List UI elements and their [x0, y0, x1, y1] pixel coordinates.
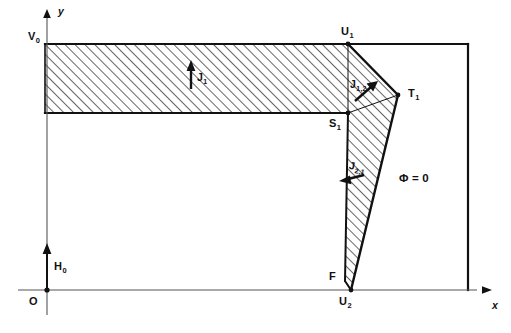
j21-arrow-head: [339, 176, 351, 185]
diagram-svg: [0, 0, 511, 333]
point-label-s1: S1: [329, 118, 341, 129]
origin-label: O: [29, 296, 38, 307]
point-label-v0: V0: [28, 31, 40, 42]
point-label-t1: T1: [408, 88, 419, 99]
u1-point-marker: [346, 42, 351, 47]
figure-canvas: y x O V0 U1 T1 S1 F U2 H0 J1 J1,2 J2,1 Φ…: [0, 0, 511, 333]
flux-label-j12-sub: 1,2: [356, 85, 366, 92]
t1-point-marker: [396, 93, 401, 98]
x-axis-arrowhead: [482, 286, 492, 294]
field-label-h0-text: H: [54, 260, 62, 272]
field-label-h0-sub: 0: [62, 266, 66, 275]
field-label-h0: H0: [54, 261, 67, 272]
s1-point-marker: [346, 111, 351, 116]
point-label-t1-sub: 1: [415, 93, 419, 102]
point-label-t1-text: T: [408, 87, 415, 99]
point-label-f: F: [329, 271, 336, 282]
y-axis-arrowhead: [43, 9, 51, 18]
flux-label-j12: J1,2: [350, 79, 366, 90]
point-label-u1: U1: [341, 26, 354, 37]
point-label-u1-text: U: [341, 25, 349, 37]
flux-label-j21: J2,1: [348, 160, 366, 173]
point-label-s1-text: S: [329, 117, 337, 129]
point-label-s1-sub: 1: [337, 123, 341, 132]
point-label-u2-text: U: [339, 295, 347, 307]
point-label-u1-sub: 1: [349, 31, 353, 40]
point-label-v0-text: V: [28, 30, 36, 42]
u2-point-marker: [349, 288, 354, 293]
x-axis-label: x: [492, 300, 498, 311]
flux-label-j1: J1: [197, 72, 207, 83]
point-label-u2-sub: 2: [347, 301, 351, 310]
flux-label-j21-sub: 2,1: [354, 167, 365, 176]
point-label-u2: U2: [339, 296, 352, 307]
y-axis-label: y: [58, 6, 64, 17]
point-label-f-text: F: [329, 270, 336, 282]
flux-label-j1-sub: 1: [203, 78, 207, 85]
h0-arrow-head: [43, 243, 52, 254]
point-label-v0-sub: 0: [36, 36, 40, 45]
potential-label: Φ = 0: [399, 173, 429, 185]
